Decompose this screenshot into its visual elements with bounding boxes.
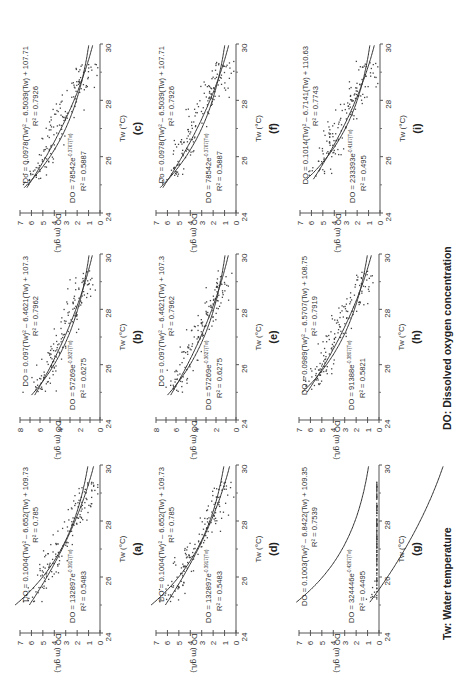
polynomial-r2: R² = 0.7962 bbox=[167, 296, 176, 336]
data-point bbox=[68, 315, 69, 316]
data-point bbox=[332, 136, 333, 137]
data-point bbox=[55, 365, 56, 366]
data-point bbox=[61, 125, 62, 126]
data-point bbox=[35, 591, 36, 592]
data-point bbox=[78, 500, 79, 501]
data-point bbox=[76, 524, 77, 525]
data-point bbox=[170, 380, 171, 381]
data-point bbox=[213, 99, 214, 100]
data-point bbox=[201, 546, 202, 547]
data-point bbox=[209, 91, 210, 92]
data-point bbox=[216, 520, 217, 521]
y-tick-label: 1 bbox=[85, 220, 94, 225]
data-point bbox=[74, 87, 75, 88]
data-point bbox=[376, 550, 377, 551]
data-point bbox=[349, 303, 350, 304]
data-point bbox=[87, 280, 88, 281]
data-point bbox=[375, 63, 376, 64]
data-point bbox=[326, 369, 327, 370]
y-axis-label: DO (m g/L) bbox=[190, 420, 199, 460]
data-point bbox=[178, 599, 179, 600]
x-axis-label: Tw (°C) bbox=[118, 115, 127, 142]
y-tick-label: 5 bbox=[39, 220, 48, 225]
data-point bbox=[71, 521, 72, 522]
x-tick-label: 30 bbox=[240, 253, 249, 262]
data-point bbox=[43, 550, 44, 551]
data-point bbox=[33, 170, 34, 171]
y-axis-label: DO (m g/L) bbox=[54, 213, 63, 253]
data-point bbox=[56, 390, 57, 391]
x-tick-label: 28 bbox=[104, 308, 113, 317]
data-point bbox=[84, 294, 85, 295]
data-point bbox=[74, 299, 75, 300]
data-point bbox=[376, 588, 377, 589]
y-tick-label: 6 bbox=[307, 220, 316, 225]
data-point bbox=[329, 145, 330, 146]
data-point bbox=[206, 314, 207, 315]
data-point bbox=[80, 77, 81, 78]
data-point bbox=[78, 289, 79, 290]
data-point bbox=[50, 383, 51, 384]
data-point bbox=[320, 375, 321, 376]
data-point bbox=[175, 379, 176, 380]
data-point bbox=[180, 381, 181, 382]
data-point bbox=[207, 537, 208, 538]
polynomial-r2: R² = 0.7539 bbox=[310, 507, 319, 547]
x-axis-label: Tw (°C) bbox=[254, 115, 263, 142]
data-point bbox=[216, 488, 217, 489]
data-point bbox=[86, 85, 87, 86]
data-point bbox=[210, 93, 211, 94]
data-point bbox=[48, 161, 49, 162]
data-point bbox=[376, 555, 377, 556]
data-point bbox=[58, 563, 59, 564]
data-point bbox=[174, 140, 175, 141]
data-point bbox=[66, 301, 67, 302]
data-point bbox=[376, 495, 377, 496]
data-point bbox=[233, 71, 234, 72]
x-tick-label: 30 bbox=[384, 43, 393, 52]
data-point bbox=[209, 329, 210, 330]
data-point bbox=[182, 174, 183, 175]
data-point bbox=[191, 121, 192, 122]
data-point bbox=[71, 97, 72, 98]
data-point bbox=[366, 96, 367, 97]
x-axis-label: Tw (°C) bbox=[254, 323, 263, 350]
data-point bbox=[96, 64, 97, 65]
data-point bbox=[43, 572, 44, 573]
data-point bbox=[37, 385, 38, 386]
data-point bbox=[82, 278, 83, 279]
data-point bbox=[340, 312, 341, 313]
data-point bbox=[227, 88, 228, 89]
data-point bbox=[49, 563, 50, 564]
data-point bbox=[332, 318, 333, 319]
data-point bbox=[338, 329, 339, 330]
data-point bbox=[54, 144, 55, 145]
data-point bbox=[366, 279, 367, 280]
data-point bbox=[367, 303, 368, 304]
data-point bbox=[197, 360, 198, 361]
data-point bbox=[38, 587, 39, 588]
x-axis-label: Tw (°C) bbox=[118, 323, 127, 350]
data-point bbox=[207, 86, 208, 87]
data-point bbox=[376, 482, 377, 483]
data-point bbox=[40, 378, 41, 379]
data-point bbox=[81, 487, 82, 488]
exponential-r2: R² = 0.5821 bbox=[358, 358, 367, 398]
data-point bbox=[376, 598, 377, 599]
data-point bbox=[376, 569, 377, 570]
data-point bbox=[75, 503, 76, 504]
data-point bbox=[367, 86, 368, 87]
data-point bbox=[61, 338, 62, 339]
data-point bbox=[87, 512, 88, 513]
data-point bbox=[207, 521, 208, 522]
data-point bbox=[333, 363, 334, 364]
y-tick-label: 7 bbox=[296, 220, 305, 225]
data-point bbox=[376, 508, 377, 509]
data-point bbox=[226, 285, 227, 286]
data-point bbox=[187, 141, 188, 142]
data-point bbox=[376, 580, 377, 581]
data-point bbox=[230, 482, 231, 483]
y-tick-label: 5 bbox=[318, 640, 327, 645]
data-point bbox=[349, 88, 350, 89]
data-point bbox=[376, 519, 377, 520]
